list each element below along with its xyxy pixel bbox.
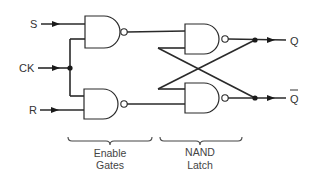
s-input-wire xyxy=(41,21,85,27)
r-input-wire xyxy=(40,107,84,113)
svg-text:Q: Q xyxy=(290,93,299,105)
q-junction-dot xyxy=(252,37,257,42)
nand-gate-latch-bottom xyxy=(185,83,228,113)
caption-nand: NAND xyxy=(185,146,215,158)
input-label-s: S xyxy=(30,18,37,30)
arrow-icon xyxy=(267,95,275,101)
arrow-icon xyxy=(267,37,275,43)
qbar-output-wire xyxy=(228,95,286,101)
ck-input-wire xyxy=(38,39,85,96)
sr-flip-flop-diagram: S CK R xyxy=(0,0,313,182)
input-label-r: R xyxy=(29,104,37,116)
arrow-icon xyxy=(52,65,60,71)
brace-enable-gates xyxy=(68,137,152,145)
arrow-icon xyxy=(52,21,60,27)
caption-enable: Enable xyxy=(94,147,127,159)
nand-gate-enable-top xyxy=(85,16,127,48)
wire-enable-top-to-latch xyxy=(127,31,185,32)
brace-nand-latch xyxy=(160,137,242,145)
output-label-q: Q xyxy=(290,35,299,47)
q-output-wire xyxy=(228,37,286,43)
ck-junction-dot xyxy=(67,65,72,70)
qbar-junction-dot xyxy=(252,95,257,100)
caption-gates: Gates xyxy=(96,159,124,171)
nand-gate-latch-top xyxy=(185,24,228,54)
caption-latch: Latch xyxy=(187,159,213,171)
input-label-ck: CK xyxy=(19,62,35,74)
nand-gate-enable-bottom xyxy=(84,89,127,119)
arrow-icon xyxy=(51,107,59,113)
output-label-qbar: Q xyxy=(290,90,299,105)
